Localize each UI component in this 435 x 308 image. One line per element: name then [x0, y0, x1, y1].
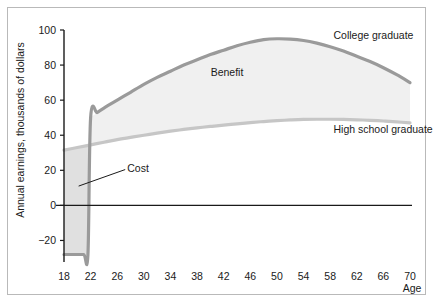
y-axis-title: Annual earnings, thousands of dollars	[14, 42, 26, 218]
chart-figure: −200204060801001822263034384246505458626…	[0, 0, 435, 308]
x-tick-label: 42	[218, 270, 230, 282]
x-tick-label: 66	[378, 270, 390, 282]
college-graduate-label: College graduate	[333, 29, 413, 41]
x-tick-label: 38	[191, 270, 203, 282]
y-tick-label: 0	[50, 199, 56, 211]
x-tick-label: 26	[111, 270, 123, 282]
cost-region	[64, 118, 91, 259]
x-tick-label: 70	[404, 270, 416, 282]
x-tick-label: 58	[324, 270, 336, 282]
x-tick-label: 18	[58, 270, 70, 282]
x-axis-title: Age	[403, 282, 422, 294]
x-tick-label: 50	[271, 270, 283, 282]
y-tick-label: 40	[44, 129, 56, 141]
x-tick-label: 46	[244, 270, 256, 282]
benefit-label: Benefit	[211, 66, 244, 78]
cost-label: Cost	[127, 162, 149, 174]
x-tick-label: 30	[138, 270, 150, 282]
x-tick-label: 62	[351, 270, 363, 282]
y-tick-label: 100	[38, 24, 56, 36]
x-tick-label: 34	[165, 270, 177, 282]
x-tick-label: 54	[298, 270, 310, 282]
y-tick-label: −20	[38, 234, 56, 246]
earnings-area-chart: −200204060801001822263034384246505458626…	[0, 0, 435, 308]
x-tick-label: 22	[85, 270, 97, 282]
y-tick-label: 80	[44, 59, 56, 71]
y-tick-label: 20	[44, 164, 56, 176]
high-school-graduate-label: High school graduate	[333, 123, 432, 135]
y-tick-label: 60	[44, 94, 56, 106]
